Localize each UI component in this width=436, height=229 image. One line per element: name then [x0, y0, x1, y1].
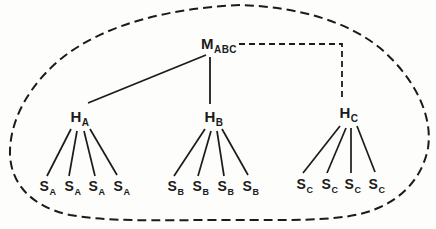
node-h-a-sublabel: A — [82, 117, 90, 128]
leaf-s-c-4: SC — [369, 176, 386, 192]
leaf-s-c-1: SC — [297, 176, 314, 192]
leaf-s-b-4-sublabel: B — [252, 187, 259, 197]
leaf-s-a-2: SA — [65, 178, 82, 194]
leaf-s-a-4-label: S — [114, 178, 124, 194]
leaf-s-b-2-label: S — [193, 178, 203, 194]
leaf-s-c-4-label: S — [369, 176, 379, 192]
edge-hc-to-sc4 — [357, 126, 375, 172]
leaf-s-a-3-sublabel: A — [98, 187, 105, 197]
leaf-s-b-3: SB — [218, 178, 235, 194]
leaf-s-a-4-sublabel: A — [123, 187, 130, 197]
leaf-s-b-2-sublabel: B — [202, 187, 209, 197]
node-h-a-label: H — [70, 108, 81, 125]
edge-hb-to-sb3 — [217, 131, 224, 176]
node-h-a: HA — [70, 109, 89, 125]
leaf-s-b-1: SB — [168, 178, 185, 194]
leaf-s-a-1-label: S — [40, 178, 50, 194]
node-h-b: HB — [204, 109, 223, 125]
edge-ha-to-sa1 — [47, 129, 71, 176]
leaf-s-a-3-label: S — [89, 178, 99, 194]
edge-root-to-ha — [88, 55, 206, 103]
edge-hb-to-sb4 — [222, 129, 248, 175]
leaf-s-c-2-sublabel: C — [331, 185, 338, 195]
leaf-s-b-3-sublabel: B — [227, 187, 234, 197]
node-h-c: HC — [339, 105, 358, 121]
tree-diagram: MABC HA HB HC SA SA SA SA SB SB SB SB SC… — [0, 0, 436, 229]
node-h-b-label: H — [204, 108, 215, 125]
leaf-s-b-1-sublabel: B — [177, 187, 184, 197]
edge-hc-to-sc2 — [327, 128, 346, 173]
leaf-s-c-3-sublabel: C — [354, 185, 361, 195]
node-h-b-sublabel: B — [216, 117, 224, 128]
edge-hc-to-sc1 — [303, 126, 340, 173]
leaf-s-a-2-label: S — [65, 178, 75, 194]
leaf-s-a-2-sublabel: A — [74, 187, 81, 197]
leaf-s-a-4: SA — [114, 178, 131, 194]
node-m-abc-sublabel: ABC — [214, 44, 237, 55]
leaf-s-b-4: SB — [243, 178, 260, 194]
node-h-c-sublabel: C — [351, 113, 359, 124]
edge-ha-to-sa2 — [69, 131, 77, 176]
node-m-abc: MABC — [201, 36, 237, 52]
node-h-c-label: H — [339, 104, 350, 121]
edge-root-to-hc-dashed — [239, 44, 342, 99]
edge-ha-to-sa4 — [90, 129, 117, 175]
leaf-s-c-1-sublabel: C — [306, 185, 313, 195]
edge-ha-to-sa3 — [84, 131, 95, 176]
leaf-s-b-1-label: S — [168, 178, 178, 194]
leaf-s-a-3: SA — [89, 178, 106, 194]
leaf-s-c-3-label: S — [345, 176, 355, 192]
leaf-s-c-2: SC — [322, 176, 339, 192]
node-m-abc-label: M — [201, 35, 214, 52]
leaf-s-a-1-sublabel: A — [49, 187, 56, 197]
leaf-s-c-4-sublabel: C — [378, 185, 385, 195]
leaf-s-c-1-label: S — [297, 176, 307, 192]
leaf-s-b-2: SB — [193, 178, 210, 194]
leaf-s-a-1: SA — [40, 178, 57, 194]
leaf-s-b-4-label: S — [243, 178, 253, 194]
leaf-s-c-2-label: S — [322, 176, 332, 192]
leaf-s-b-3-label: S — [218, 178, 228, 194]
leaf-s-c-3: SC — [345, 176, 362, 192]
